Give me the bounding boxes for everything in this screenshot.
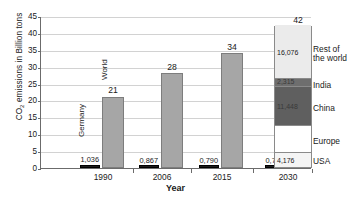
series-label-germany: Germany — [77, 104, 86, 137]
value-label-world-1990: 21 — [93, 86, 133, 95]
x-tick-mark — [253, 169, 254, 173]
bar-world-2015 — [221, 53, 243, 168]
stack-value-china: 11,448 — [277, 103, 298, 110]
legend-item-rest-of-the-world: Rest ofthe world — [313, 45, 347, 64]
y-tick-mark — [38, 51, 41, 52]
y-axis-tick-label: 25 — [28, 80, 37, 88]
legend-item-china: China — [313, 104, 335, 113]
stack-value-india: 2,315 — [277, 79, 295, 85]
y-tick-mark — [38, 152, 41, 153]
x-axis-tick-label-2030: 2030 — [258, 172, 318, 182]
gridline — [41, 51, 311, 52]
legend-item-india: India — [313, 81, 331, 90]
stack-segment-china: 11,448 — [275, 87, 311, 126]
y-tick-mark — [38, 17, 41, 18]
value-label-germany-1990: 1,036 — [57, 156, 99, 163]
legend-item-usa: USA — [313, 157, 330, 166]
y-axis-tick-label: 40 — [28, 30, 37, 38]
value-label-germany-2015: 0,790 — [176, 157, 218, 164]
y-tick-mark — [38, 68, 41, 69]
stack-value-rest-of-the-world: 16,076 — [277, 49, 298, 56]
y-axis-tick-label: 5 — [32, 148, 37, 156]
stack-segment-usa: 4,176 — [275, 153, 311, 167]
y-axis-tick-label: 0 — [32, 165, 37, 173]
gridline — [41, 34, 311, 35]
x-axis-title: Year — [0, 183, 351, 193]
y-axis-title: CO2 emissions in Billion tons — [15, 0, 24, 142]
value-label-germany-2006: 0,867 — [116, 157, 158, 164]
y-tick-mark — [38, 118, 41, 119]
bar-germany-1990 — [80, 165, 100, 168]
y-axis-tick-label: 45 — [28, 13, 37, 21]
y-tick-mark — [38, 85, 41, 86]
y-axis-tick-label: 30 — [28, 64, 37, 72]
plot-area: 0510152025303540451,03621GermanyWorld0,8… — [40, 17, 311, 169]
y-tick-mark — [38, 135, 41, 136]
y-axis-tick-label: 35 — [28, 47, 37, 55]
bar-germany-2015 — [199, 165, 219, 168]
co2-emissions-chart: CO2 emissions in Billion tons 0510152025… — [0, 0, 351, 204]
stacked-breakdown-2030: 4,17611,4482,31516,076 — [274, 26, 312, 168]
value-label-world-2006: 28 — [152, 63, 192, 72]
y-tick-mark — [38, 34, 41, 35]
bar-germany-2006 — [139, 165, 159, 168]
y-tick-mark — [38, 101, 41, 102]
y-tick-mark — [38, 169, 41, 170]
y-axis-tick-label: 20 — [28, 97, 37, 105]
stack-segment-europe — [275, 126, 311, 153]
series-label-world: World — [100, 59, 109, 80]
stack-segment-rest-of-the-world: 16,076 — [275, 25, 311, 79]
gridline — [41, 17, 311, 18]
stack-segment-india: 2,315 — [275, 79, 311, 87]
x-axis-tick-label-2015: 2015 — [192, 172, 252, 182]
legend-item-europe: Europe — [313, 137, 340, 146]
value-label-world-2030: 42 — [278, 16, 318, 25]
x-axis-tick-label-1990: 1990 — [73, 172, 133, 182]
x-axis-tick-label-2006: 2006 — [132, 172, 192, 182]
y-axis-tick-label: 10 — [28, 131, 37, 139]
y-axis-tick-label: 15 — [28, 114, 37, 122]
stack-value-usa: 4,176 — [277, 157, 295, 164]
value-label-world-2015: 34 — [212, 43, 252, 52]
bar-world-2006 — [161, 73, 183, 168]
